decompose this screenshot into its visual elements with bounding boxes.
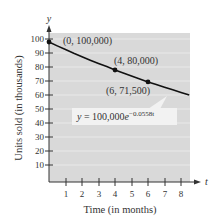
point-label-0: (0, 100,000) [63,35,112,47]
y-axis-title: Units sold (in thousands) [13,55,25,161]
svg-text:3: 3 [97,189,102,199]
svg-text:20: 20 [35,146,45,156]
svg-text:60: 60 [35,90,45,100]
svg-text:5: 5 [130,189,135,199]
svg-text:1: 1 [64,189,69,199]
svg-text:2: 2 [80,189,85,199]
svg-text:10: 10 [35,160,45,170]
svg-text:70: 70 [35,76,45,86]
svg-text:100: 100 [31,34,45,44]
svg-text:80: 80 [35,62,45,72]
point-4 [113,68,118,73]
chart: 10 20 30 40 50 60 70 80 90 100 1 2 3 4 5… [0,0,212,222]
point-6 [146,80,151,85]
point-label-6: (6, 71,500) [106,85,150,97]
point-label-4: (4, 80,000) [114,55,158,67]
x-axis-title: Time (in months) [83,204,157,216]
svg-text:50: 50 [35,104,45,114]
y-tick-labels: 10 20 30 40 50 60 70 80 90 100 [31,34,45,170]
svg-text:40: 40 [35,118,45,128]
svg-text:8: 8 [179,189,184,199]
x-axis-symbol: t [205,176,208,187]
svg-text:30: 30 [35,132,45,142]
svg-text:90: 90 [35,48,45,58]
x-tick-labels: 1 2 3 4 5 6 7 8 [64,189,184,199]
svg-text:6: 6 [146,189,151,199]
y-axis-arrow-icon [47,25,52,32]
svg-text:4: 4 [113,189,118,199]
x-axis-arrow-icon [194,180,201,185]
y-axis-symbol: y [46,13,52,24]
point-0 [47,40,52,45]
svg-text:7: 7 [163,189,168,199]
